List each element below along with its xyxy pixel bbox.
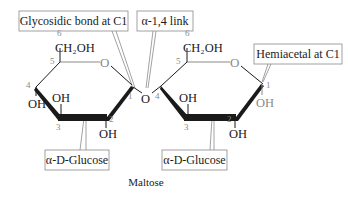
- callout-glucose-left-text: α-D-Glucose: [46, 153, 108, 167]
- left-glucose-ring: CH₂OH O OH OH OH 6 5 4 3 2 1: [26, 28, 142, 141]
- callout-glucose-right-text: α-D-Glucose: [163, 153, 225, 167]
- callout-glycosidic-text: Glycosidic bond at C1: [20, 14, 128, 28]
- callout-hemiacetal: Hemiacetal at C1: [254, 44, 342, 82]
- left-c3-number: 3: [56, 122, 61, 132]
- right-c1-number: 1: [266, 80, 271, 90]
- right-ring-oxygen: O: [230, 55, 239, 70]
- right-c4-number: 4: [155, 91, 160, 101]
- left-oh-c2: OH: [99, 127, 117, 141]
- right-oh-c2: OH: [229, 127, 247, 141]
- right-c3-number: 3: [184, 122, 189, 132]
- left-ring-oxygen: O: [100, 55, 109, 70]
- diagram-caption: Maltose: [128, 176, 164, 188]
- callout-glucose-right: α-D-Glucose: [162, 118, 227, 170]
- right-ch2oh-label: CH₂OH: [183, 41, 223, 55]
- callout-glucose-left: α-D-Glucose: [45, 118, 109, 170]
- right-oh-c1: OH: [256, 96, 274, 110]
- right-c2-number: 2: [227, 114, 232, 124]
- left-oh-c3: OH: [52, 91, 70, 105]
- right-c5-number: 5: [176, 56, 181, 66]
- right-c6-number: 6: [185, 28, 190, 38]
- left-oh-c4: OH: [28, 97, 46, 111]
- maltose-diagram: Glycosidic bond at C1 α-1,4 link Hemiace…: [0, 0, 348, 198]
- left-c2-number: 2: [109, 114, 114, 124]
- callout-hemiacetal-text: Hemiacetal at C1: [256, 47, 339, 61]
- left-ch2oh-label: CH₂OH: [55, 41, 95, 55]
- left-c1-number: 1: [128, 91, 133, 101]
- left-c6-number: 6: [57, 28, 62, 38]
- glycosidic-oxygen: O: [141, 92, 150, 106]
- callout-link-text: α-1,4 link: [142, 14, 189, 28]
- right-oh-c3: OH: [179, 91, 197, 105]
- left-c4-number: 4: [26, 80, 31, 90]
- left-c5-number: 5: [50, 56, 55, 66]
